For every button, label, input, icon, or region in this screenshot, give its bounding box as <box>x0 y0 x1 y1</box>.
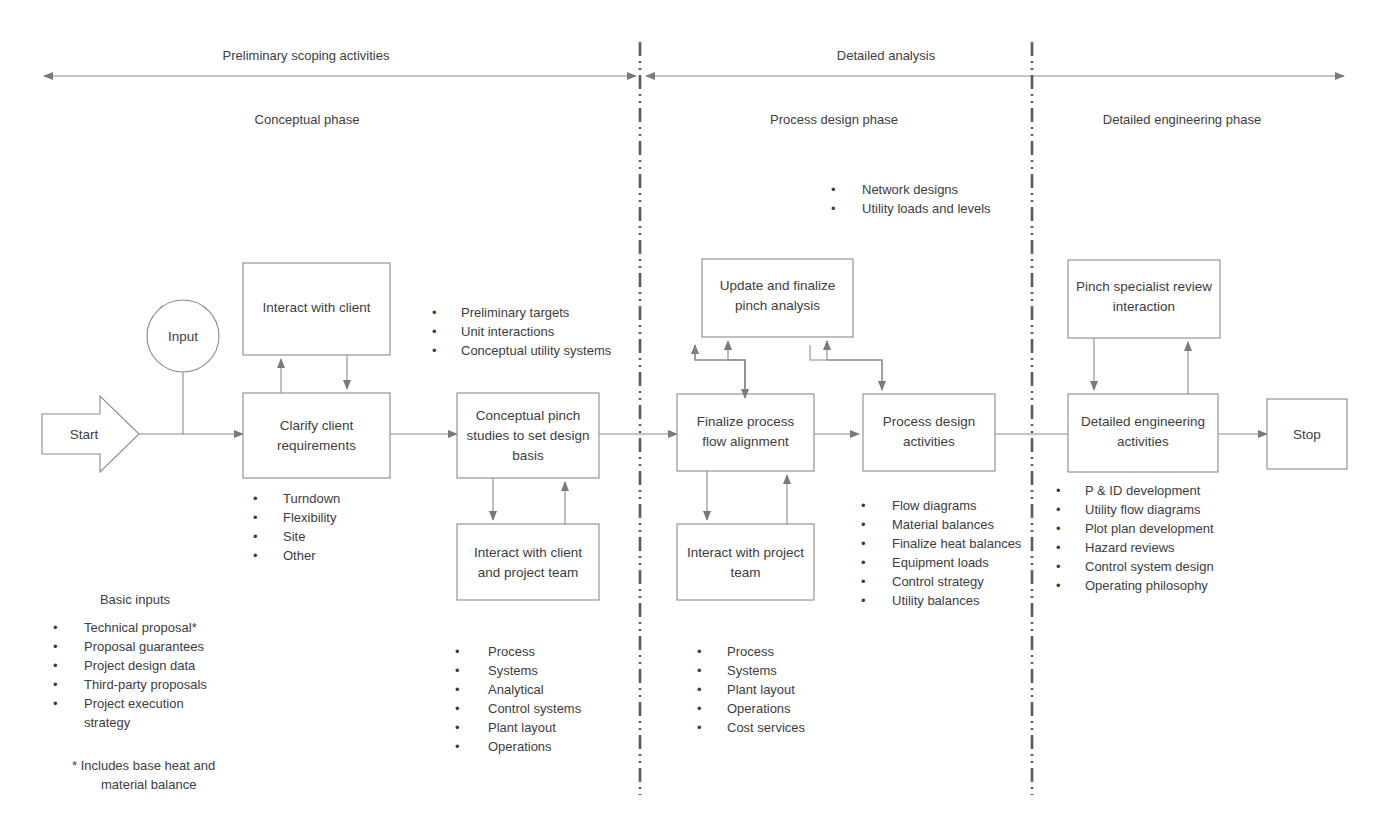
conceptual-pinch-label-line3: basis <box>512 448 544 463</box>
clarify-client-box <box>243 393 390 478</box>
bullet-label: Utility flow diagrams <box>1085 502 1201 517</box>
clarify-client-label-line2: requirements <box>277 438 356 453</box>
bullet-label: Network designs <box>862 182 959 197</box>
bullet-dot: • <box>455 720 460 735</box>
node-start[interactable]: Start <box>42 396 139 472</box>
bullet-label: Project design data <box>84 658 196 673</box>
node-update-finalize-pinch-analysis[interactable]: Update and finalize pinch analysis <box>702 259 853 337</box>
interact-with-client-label: Interact with client <box>262 300 370 315</box>
node-interact-client-and-project-team[interactable]: Interact with client and project team <box>457 524 599 600</box>
bullet-dot: • <box>432 324 437 339</box>
node-clarify-client-requirements[interactable]: Clarify client requirements <box>243 393 390 478</box>
process-design-label-line2: activities <box>903 434 955 449</box>
bullet-dot: • <box>831 201 836 216</box>
update-pinch-label-line1: Update and finalize <box>720 278 836 293</box>
bullet-dot: • <box>831 182 836 197</box>
finalize-flow-box <box>677 394 814 471</box>
bullet-label: Control strategy <box>892 574 984 589</box>
band-label-detailed: Detailed analysis <box>837 48 936 63</box>
bullet-dot: • <box>1056 578 1061 593</box>
bullet-dot: • <box>861 574 866 589</box>
bullet-label: Plant layout <box>488 720 556 735</box>
bullet-dot: • <box>1056 483 1061 498</box>
finalize-flow-label-line2: flow alignment <box>702 434 789 449</box>
bullet-label: Operating philosophy <box>1085 578 1208 593</box>
bullet-dot: • <box>697 682 702 697</box>
bullet-label: Proposal guarantees <box>84 639 204 654</box>
node-process-design-activities[interactable]: Process design activities <box>863 394 995 471</box>
node-interact-with-client[interactable]: Interact with client <box>243 263 390 355</box>
bullet-dot: • <box>1056 521 1061 536</box>
bullet-dot: • <box>53 620 58 635</box>
finalize-flow-label-line1: Finalize process <box>697 414 795 429</box>
conceptual-pinch-label-line1: Conceptual pinch <box>476 408 580 423</box>
interact-project-team-label-line1: Interact with project <box>687 545 804 560</box>
interact-client-team-label-line1: Interact with client <box>474 545 582 560</box>
bullet-dot: • <box>53 677 58 692</box>
bullet-dot: • <box>253 491 258 506</box>
bullets-clarify-aspects: • Turndown • Flexibility • Site • Other <box>253 491 340 563</box>
bullet-label: Site <box>283 529 305 544</box>
process-design-label-line1: Process design <box>883 414 975 429</box>
bullets-basic-inputs: Basic inputs • Technical proposal* • Pro… <box>53 592 215 792</box>
conceptual-pinch-label-line2: studies to set design <box>466 428 589 443</box>
start-label: Start <box>70 427 99 442</box>
connector-update-pinch-down-to-process-design <box>810 345 882 390</box>
node-input[interactable]: Input <box>147 300 219 372</box>
bullet-dot: • <box>861 593 866 608</box>
detailed-eng-label-line2: activities <box>1117 434 1169 449</box>
bullet-dot: • <box>697 720 702 735</box>
bullet-dot: • <box>455 663 460 678</box>
node-stop[interactable]: Stop <box>1267 399 1347 469</box>
bullet-label: Finalize heat balances <box>892 536 1022 551</box>
node-interact-with-project-team[interactable]: Interact with project team <box>677 524 814 600</box>
bullet-dot: • <box>1056 559 1061 574</box>
bullet-dot: • <box>253 510 258 525</box>
bullet-dot: • <box>861 555 866 570</box>
bullet-dot: • <box>861 517 866 532</box>
bullet-label-continuation: strategy <box>84 715 131 730</box>
bullet-label: Equipment loads <box>892 555 989 570</box>
bullet-dot: • <box>53 639 58 654</box>
bullet-dot: • <box>861 536 866 551</box>
bullet-label: Cost services <box>727 720 806 735</box>
phase-label-process-design: Process design phase <box>770 112 898 127</box>
bullet-dot: • <box>697 701 702 716</box>
node-finalize-process-flow-alignment[interactable]: Finalize process flow alignment <box>677 394 814 471</box>
bullet-label: Flexibility <box>283 510 337 525</box>
basic-inputs-footnote-line1: * Includes base heat and <box>72 758 215 773</box>
bullet-dot: • <box>253 529 258 544</box>
bullet-label: Technical proposal* <box>84 620 197 635</box>
pinch-review-label-line2: interaction <box>1113 299 1175 314</box>
interact-client-team-box <box>457 524 599 600</box>
bullets-detailed-eng-outputs: • P & ID development • Utility flow diag… <box>1056 483 1214 593</box>
bullet-label: Systems <box>488 663 538 678</box>
input-label: Input <box>168 329 198 344</box>
bullets-process-design-disciplines: • Process • Systems • Plant layout • Ope… <box>697 644 806 735</box>
node-detailed-engineering-activities[interactable]: Detailed engineering activities <box>1068 394 1218 472</box>
bullets-conceptual-outputs: • Preliminary targets • Unit interaction… <box>432 305 612 358</box>
bullets-conceptual-disciplines: • Process • Systems • Analytical • Contr… <box>455 644 582 754</box>
bullet-label: Process <box>488 644 535 659</box>
bullet-label: Third-party proposals <box>84 677 207 692</box>
pinch-review-label-line1: Pinch specialist review <box>1076 279 1212 294</box>
bullet-dot: • <box>253 548 258 563</box>
bullet-dot: • <box>53 696 58 711</box>
bullet-dot: • <box>53 658 58 673</box>
bullet-label: Plot plan development <box>1085 521 1214 536</box>
bullet-label: Analytical <box>488 682 544 697</box>
bullet-label: Process <box>727 644 774 659</box>
node-pinch-specialist-review[interactable]: Pinch specialist review interaction <box>1068 260 1220 338</box>
interact-client-team-label-line2: and project team <box>478 565 579 580</box>
bullet-dot: • <box>432 305 437 320</box>
connector-process-design-to-update-pinch <box>827 341 882 390</box>
bullet-label: Other <box>283 548 316 563</box>
connector-left-elbow-down <box>695 345 745 398</box>
bullets-network-outputs: • Network designs • Utility loads and le… <box>831 182 991 216</box>
bullet-label: Control systems <box>488 701 582 716</box>
bullet-label: Operations <box>727 701 791 716</box>
bullet-dot: • <box>697 644 702 659</box>
bullets-process-design-outputs: • Flow diagrams • Material balances • Fi… <box>861 498 1022 608</box>
bullet-label: Plant layout <box>727 682 795 697</box>
node-conceptual-pinch-studies[interactable]: Conceptual pinch studies to set design b… <box>457 393 599 478</box>
